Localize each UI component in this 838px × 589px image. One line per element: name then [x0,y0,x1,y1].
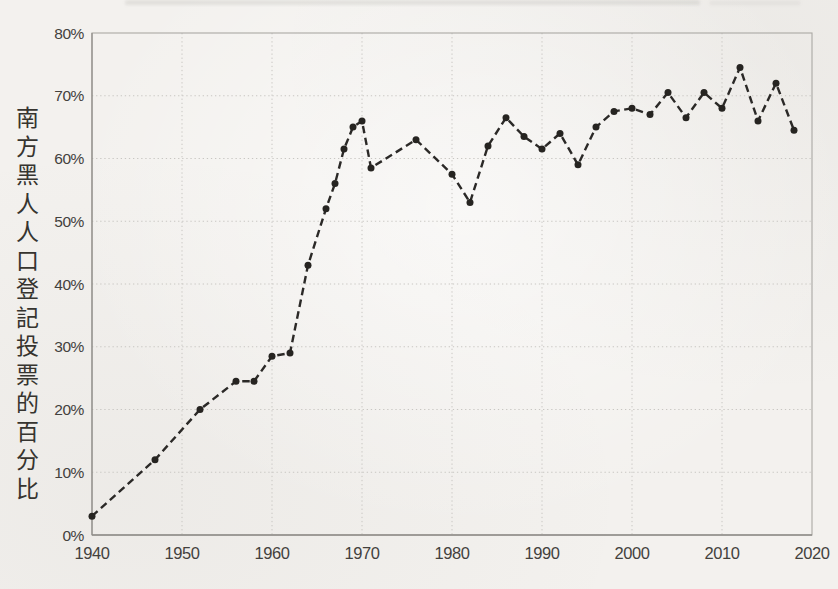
data-point [683,114,690,121]
data-point [755,117,762,124]
x-tick-label: 1960 [254,544,289,562]
y-tick-label: 70% [54,87,84,104]
data-line [92,68,794,517]
data-point [269,353,276,360]
data-point [503,114,510,121]
y-tick-label: 30% [54,338,84,355]
y-tick-label: 80% [54,25,84,42]
x-tick-label: 2000 [614,544,649,562]
data-point [575,161,582,168]
x-tick-label: 1940 [74,544,109,562]
data-point [593,124,600,131]
data-point [323,205,330,212]
data-point [332,180,339,187]
x-tick-label: 1980 [434,544,469,562]
data-point [449,171,456,178]
line-chart: 0%10%20%30%40%50%60%70%80%19401950196019… [0,0,838,589]
grid-lines [92,33,812,535]
x-tick-labels: 194019501960197019801990200020102020 [74,544,829,562]
data-point [737,64,744,71]
y-tick-label: 40% [54,276,84,293]
y-tick-labels: 0%10%20%30%40%50%60%70%80% [54,25,84,544]
data-point [251,378,258,385]
data-point [647,111,654,118]
data-points [89,64,798,520]
data-point [341,146,348,153]
data-point [773,80,780,87]
x-tick-label: 1950 [164,544,199,562]
data-point [233,378,240,385]
data-point [359,117,366,124]
data-point [629,105,636,112]
x-tick-label: 2010 [704,544,739,562]
x-tick-label: 2020 [794,544,829,562]
y-tick-label: 50% [54,213,84,230]
data-point [467,199,474,206]
data-point [413,136,420,143]
y-tick-label: 20% [54,401,84,418]
data-point [539,146,546,153]
data-point [305,262,312,269]
data-point [89,513,96,520]
data-point [350,124,357,131]
data-point [719,105,726,112]
y-tick-label: 0% [62,527,84,544]
x-tick-label: 1970 [344,544,379,562]
data-point [701,89,708,96]
data-point [665,89,672,96]
data-point [611,108,618,115]
data-point [791,127,798,134]
y-tick-label: 10% [54,464,84,481]
data-point [485,142,492,149]
x-tick-label: 1990 [524,544,559,562]
data-point [152,456,159,463]
scanned-page: 南方黑人人口登記投票的百分比 0%10%20%30%40%50%60%70%80… [0,0,838,589]
data-point [557,130,564,137]
data-point [521,133,528,140]
data-point [197,406,204,413]
data-point [368,164,375,171]
data-point [287,350,294,357]
y-tick-label: 60% [54,150,84,167]
